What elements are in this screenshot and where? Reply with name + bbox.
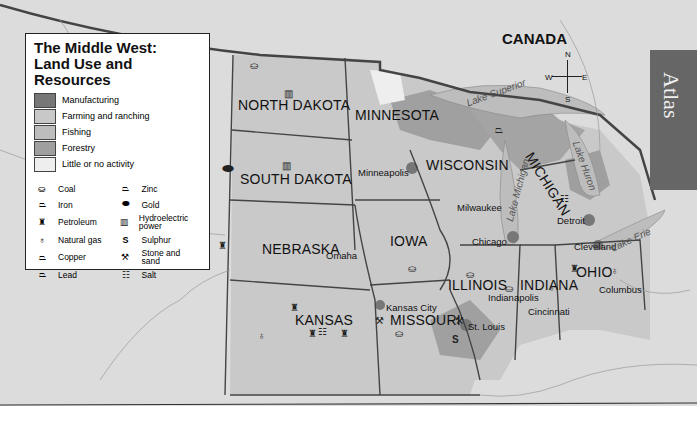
legend-label: Stone and sand <box>141 249 201 265</box>
legend-copper: ⏢Copper <box>34 249 118 265</box>
compass-north: N <box>565 50 571 59</box>
coal-icon: ⛀ <box>466 269 474 280</box>
legend-forestry: Forestry <box>34 140 201 156</box>
title-line-3: Resources <box>34 72 201 88</box>
natural-gas-icon: ♁ <box>258 330 266 341</box>
city-detroit: Detroit <box>557 216 585 226</box>
atlas-tab-label: Atlas <box>658 72 684 118</box>
city-columbus: Columbus <box>599 285 642 295</box>
iron-icon: ⏢ <box>34 199 50 210</box>
legend-label: Gold <box>142 201 160 209</box>
sulphur-icon: S <box>118 235 134 245</box>
legend-label: Petroleum <box>58 218 97 226</box>
legend-label: Farming and ranching <box>62 111 150 121</box>
legend-label: Forestry <box>62 143 95 153</box>
legend-stone-sand: ⚒Stone and sand <box>118 249 202 265</box>
legend-label: Sulphur <box>142 236 171 244</box>
map: The Middle West: Land Use and Resources … <box>0 0 697 406</box>
zinc-icon: ⏢ <box>118 183 134 194</box>
city-indianapolis: Indianapolis <box>488 293 539 303</box>
state-illinois: ILLINOIS <box>448 278 507 292</box>
legend-farming: Farming and ranching <box>34 108 201 124</box>
sulphur-icon: S <box>452 334 459 345</box>
legend-title: The Middle West: Land Use and Resources <box>34 40 201 88</box>
state-iowa: IOWA <box>390 234 428 248</box>
legend-petroleum: ♜Petroleum <box>34 214 118 230</box>
coal-icon: ⛀ <box>250 60 258 71</box>
natural-gas-icon: ♁ <box>611 265 619 276</box>
salt-icon: ☷ <box>318 326 327 337</box>
state-ohio: OHIO <box>576 265 613 279</box>
city-omaha: Omaha <box>326 251 357 261</box>
city-milwaukee: Milwaukee <box>457 203 502 213</box>
city-kansas-city: Kansas City <box>386 303 437 313</box>
hydroelectric-icon: ▥ <box>118 217 131 227</box>
resources-legend: ⛀Coal ⏢Zinc ⏢Iron ⬬Gold ♜Petroleum ▥Hydr… <box>34 182 201 281</box>
petroleum-icon: ♜ <box>34 217 50 227</box>
iron-icon: ⏢ <box>495 124 503 136</box>
petroleum-icon: ♜ <box>570 263 579 274</box>
legend-label: Iron <box>58 201 73 209</box>
petroleum-icon: ♜ <box>308 328 317 339</box>
legend-label: Natural gas <box>58 236 101 244</box>
stone-sand-icon: ⚒ <box>118 252 134 262</box>
legend-label: Salt <box>142 271 157 279</box>
stone-sand-icon: ⚒ <box>375 315 384 326</box>
compass-south: S <box>565 95 570 104</box>
legend-natural-gas: ♁Natural gas <box>34 233 118 246</box>
title-line-1: The Middle West: <box>34 40 201 56</box>
hydroelectric-icon: ▥ <box>282 160 291 171</box>
legend-zinc: ⏢Zinc <box>118 182 202 195</box>
city-cincinnati: Cincinnati <box>528 307 570 317</box>
legend-sulphur: SSulphur <box>118 233 202 246</box>
gold-icon: ⬬ <box>118 199 134 210</box>
legend-label: Fishing <box>62 127 91 137</box>
natural-gas-icon: ♁ <box>548 282 556 293</box>
country-label-canada: CANADA <box>502 31 567 46</box>
coal-icon: ⛀ <box>505 283 513 294</box>
legend-label: Lead <box>58 271 77 279</box>
hydroelectric-icon: ▥ <box>284 88 293 99</box>
legend-fishing: Fishing <box>34 124 201 140</box>
gold-icon: ⬬ <box>222 160 234 177</box>
natural-gas-icon: ♁ <box>34 235 50 245</box>
state-wisconsin: WISCONSIN <box>426 158 509 172</box>
legend-label: Manufacturing <box>62 95 119 105</box>
state-kansas: KANSAS <box>295 313 353 327</box>
legend: The Middle West: Land Use and Resources … <box>25 33 210 270</box>
title-line-2: Land Use and <box>34 56 201 72</box>
legend-gold: ⬬Gold <box>118 198 202 211</box>
state-north-dakota: NORTH DAKOTA <box>238 98 350 112</box>
legend-manufacturing: Manufacturing <box>34 92 201 108</box>
salt-icon: ☷ <box>560 193 569 204</box>
compass-west: W <box>545 73 553 82</box>
legend-label: Zinc <box>142 185 158 193</box>
petroleum-icon: ♜ <box>290 302 299 313</box>
legend-coal: ⛀Coal <box>34 182 118 195</box>
legend-label: Copper <box>58 253 86 261</box>
legend-little-activity: Little or no activity <box>34 156 201 172</box>
legend-label: Hydroelectric power <box>139 214 201 230</box>
legend-label: Coal <box>58 185 75 193</box>
atlas-tab[interactable]: Atlas <box>650 50 697 190</box>
coal-icon: ⛀ <box>34 184 50 194</box>
city-st-louis: St. Louis <box>468 322 505 332</box>
petroleum-icon: ♜ <box>218 240 227 251</box>
land-use-legend: Manufacturing Farming and ranching Fishi… <box>34 92 201 172</box>
city-chicago: Chicago <box>472 237 507 247</box>
legend-hydroelectric: ▥Hydroelectric power <box>118 214 202 230</box>
compass-east: E <box>582 73 587 82</box>
state-missouri: MISSOURI <box>390 313 461 327</box>
coal-icon: ⛀ <box>395 328 403 339</box>
compass-ew-line <box>552 76 582 77</box>
coal-icon: ⛀ <box>408 263 416 274</box>
stone-sand-icon: ⚒ <box>455 315 464 326</box>
legend-lead: ⏢Lead <box>34 268 118 281</box>
city-minneapolis: Minneapolis <box>358 168 409 178</box>
state-south-dakota: SOUTH DAKOTA <box>240 172 352 186</box>
lead-icon: ⏢ <box>34 269 50 280</box>
legend-salt: ☷Salt <box>118 268 202 281</box>
legend-iron: ⏢Iron <box>34 198 118 211</box>
legend-label: Little or no activity <box>62 159 134 169</box>
petroleum-icon: ♜ <box>340 328 349 339</box>
